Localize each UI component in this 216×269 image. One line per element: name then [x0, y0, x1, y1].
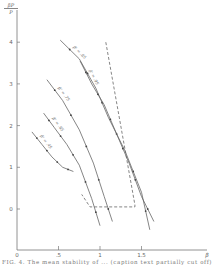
curve-label: β' = .85 — [72, 45, 88, 60]
data-point — [67, 168, 69, 170]
data-point — [69, 49, 71, 51]
data-point — [134, 179, 136, 181]
data-point — [109, 118, 111, 120]
curve-label: β' = .65 — [51, 116, 65, 133]
data-point — [54, 89, 56, 91]
data-point — [98, 179, 100, 181]
data-point — [147, 208, 149, 210]
series-line — [60, 40, 150, 230]
series-line — [44, 113, 100, 226]
data-point — [46, 150, 48, 152]
x-tick-label: 1 — [98, 252, 102, 258]
data-point — [72, 154, 74, 156]
y-tick-label: 2 — [9, 123, 13, 129]
y-label-denominator: P — [9, 9, 12, 15]
y-tick-label: 1 — [9, 164, 13, 170]
data-point — [85, 72, 87, 74]
chart-plot: 01234 0.511.5β β' = .45β' = .65β' = .75β… — [0, 0, 216, 269]
data-point — [70, 114, 72, 116]
y-tick-label: 3 — [9, 81, 13, 87]
curve-labels: β' = .45β' = .65β' = .75β' = .85β' = .95 — [39, 45, 100, 150]
x-ticks: 0.511.5β — [15, 246, 209, 259]
y-tick-label: 0 — [9, 206, 13, 212]
x-tick-label: 0 — [15, 252, 19, 258]
series-line — [32, 132, 74, 172]
data-point — [95, 211, 97, 213]
data-point — [56, 161, 58, 163]
data-point — [97, 93, 99, 95]
y-axis-label: βP P — [4, 2, 18, 15]
y-tick-label: 4 — [9, 39, 13, 45]
data-point — [85, 146, 87, 148]
x-tick-label: .5 — [56, 252, 62, 258]
y-ticks: 01234 — [9, 39, 20, 212]
data-point — [36, 137, 38, 139]
figure-caption: FIG. 4. The mean stability of ... (capti… — [2, 259, 216, 265]
data-point — [145, 210, 147, 212]
data-point — [107, 208, 109, 210]
data-point — [60, 135, 62, 137]
data-point — [85, 181, 87, 183]
series-line — [47, 80, 113, 222]
x-tick-label: 1.5 — [137, 252, 146, 258]
dashed-boundary-line — [82, 42, 135, 207]
x-axis-end-label: β — [205, 252, 209, 259]
curve-label: β' = .45 — [39, 134, 53, 150]
data-point — [122, 148, 124, 150]
curve-label: β' = .75 — [57, 86, 71, 103]
data-point — [48, 119, 50, 121]
y-label-numerator: βP — [4, 2, 18, 9]
